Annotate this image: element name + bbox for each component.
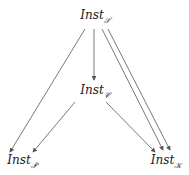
edge-s-to-k-1 bbox=[102, 29, 163, 150]
node-label: Inst bbox=[80, 8, 103, 22]
node-subscript: 𝒞 bbox=[104, 91, 110, 100]
node-subscript: 𝒮 bbox=[104, 16, 110, 25]
node-subscript: 𝒦 bbox=[174, 161, 181, 170]
node-label: Inst bbox=[7, 153, 30, 167]
edge-c-to-p bbox=[33, 102, 75, 152]
node-label: Inst bbox=[80, 83, 103, 97]
node-subscript: 𝒫 bbox=[31, 161, 37, 170]
edge-c-to-k bbox=[106, 102, 155, 152]
node-inst-p: Inst𝒫 bbox=[7, 153, 36, 170]
node-label: Inst bbox=[151, 153, 174, 167]
node-inst-s: Inst𝒮 bbox=[80, 8, 109, 25]
node-inst-c: Inst𝒞 bbox=[80, 83, 109, 100]
edge-s-to-p bbox=[10, 29, 85, 152]
node-inst-k: Inst𝒦 bbox=[151, 153, 181, 170]
diagram: Inst𝒮 Inst𝒞 Inst𝒫 Inst𝒦 bbox=[0, 0, 189, 175]
edge-s-to-k-2 bbox=[108, 29, 170, 150]
